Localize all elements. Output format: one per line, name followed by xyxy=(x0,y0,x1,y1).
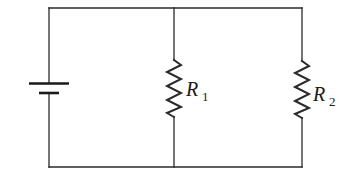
r2-label: R xyxy=(312,83,325,105)
r2-subscript: 2 xyxy=(329,94,336,109)
r1-resistor-icon xyxy=(167,60,181,117)
r2-resistor-icon xyxy=(295,61,309,118)
r1-label: R xyxy=(185,78,198,100)
r1-subscript: 1 xyxy=(202,89,209,104)
circuit-diagram: R 1 R 2 xyxy=(0,0,358,180)
battery-icon xyxy=(29,84,69,94)
